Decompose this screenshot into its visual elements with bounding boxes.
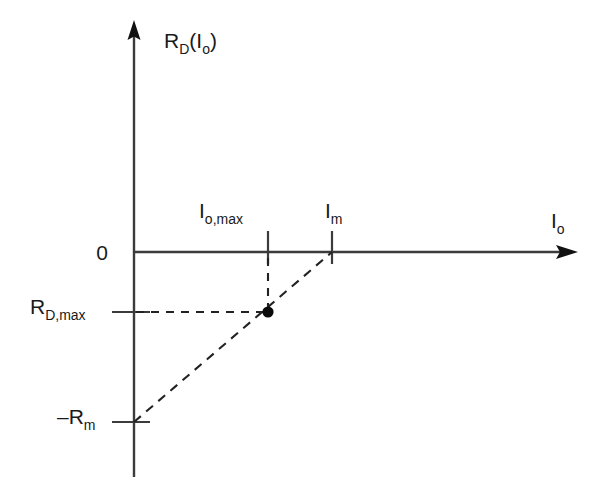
y-tick-label-neg-rm-sub: m	[84, 417, 96, 433]
x-tick-label-im: Im	[325, 199, 343, 227]
x-axis-label: Io	[551, 209, 565, 237]
figure-root: RD(Io) Io 0 Io,max Im RD,max –Rm	[0, 0, 607, 501]
labels-group: RD(Io) Io 0 Io,max Im RD,max –Rm	[30, 29, 565, 433]
y-axis-label-sub1: D	[179, 41, 189, 57]
characteristic-line	[134, 252, 332, 422]
x-tick-label-io-max: Io,max	[199, 199, 243, 227]
y-tick-label-rd-max-main: R	[30, 295, 45, 318]
x-tick-label-im-sub: m	[331, 211, 343, 227]
y-tick-label-rd-max-sub: D,max	[45, 307, 85, 323]
y-axis-label: RD(Io)	[164, 29, 217, 57]
y-axis-label-main3: )	[210, 29, 217, 52]
y-tick-label-neg-rm: –Rm	[57, 405, 96, 433]
rd-io-characteristic-diagram: RD(Io) Io 0 Io,max Im RD,max –Rm	[0, 0, 607, 501]
operating-point-marker	[262, 306, 273, 317]
y-axis-label-sub2: o	[202, 41, 210, 57]
y-axis-label-main2: (I	[189, 29, 202, 52]
y-axis-label-main1: R	[164, 29, 179, 52]
axes-group	[128, 20, 579, 477]
x-axis-label-sub: o	[557, 221, 565, 237]
y-tick-label-rd-max: RD,max	[30, 295, 86, 323]
plot-group	[134, 252, 332, 422]
y-tick-label-neg-rm-main: –R	[57, 405, 84, 428]
origin-label: 0	[96, 241, 108, 264]
tick-marks-group	[112, 231, 332, 422]
x-tick-label-io-max-sub: o,max	[205, 211, 243, 227]
